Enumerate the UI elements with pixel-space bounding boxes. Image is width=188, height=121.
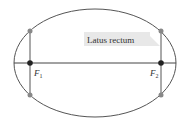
endpoint-right-top: [159, 29, 164, 34]
focus-2-point: [158, 60, 164, 66]
ellipse-diagram: Latus rectum F1 F2: [0, 0, 188, 121]
latus-rectum-label: Latus rectum: [87, 35, 134, 45]
endpoint-right-bottom: [159, 93, 164, 98]
endpoint-left-top: [28, 29, 33, 34]
focus-1-label: F1: [33, 68, 43, 79]
focus-2-label: F2: [149, 68, 159, 79]
endpoint-left-bottom: [28, 93, 33, 98]
focus-1-point: [27, 60, 33, 66]
